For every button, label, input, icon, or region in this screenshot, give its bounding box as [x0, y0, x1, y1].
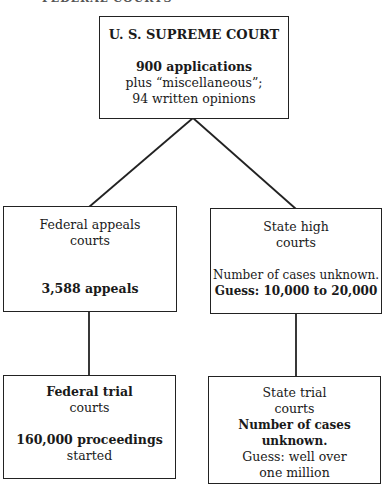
supreme-court-applications: 900 applications [100, 59, 288, 75]
supreme-court-misc: plus “miscellaneous”; [100, 75, 288, 91]
supreme-court-title: U. S. SUPREME COURT [100, 27, 288, 43]
state-trial-detail: Number of cases unknown. [209, 417, 380, 449]
state-high-box: State high courts Number of cases unknow… [210, 208, 382, 314]
state-trial-guess: Guess: well over [209, 449, 380, 465]
state-trial-title: State trial [209, 385, 380, 401]
supreme-court-box: U. S. SUPREME COURT 900 applications plu… [99, 16, 289, 119]
page-header-fragment: FEDERAL COURTS [42, 0, 172, 5]
federal-trial-box: Federal trial courts 160,000 proceedings… [3, 375, 176, 479]
state-high-guess: Guess: 10,000 to 20,000 [211, 283, 381, 299]
federal-trial-count: 160,000 proceedings [4, 432, 175, 448]
supreme-court-opinions: 94 written opinions [100, 91, 288, 107]
federal-appeals-count: 3,588 appeals [4, 281, 176, 297]
state-high-title: State high [211, 219, 381, 235]
federal-appeals-box: Federal appeals courts 3,588 appeals [3, 206, 177, 312]
federal-trial-title: Federal trial [4, 384, 175, 400]
state-high-detail: Number of cases unknown. [211, 267, 381, 283]
federal-appeals-title: Federal appeals [4, 217, 176, 233]
state-trial-box: State trial courts Number of cases unkno… [208, 376, 381, 484]
